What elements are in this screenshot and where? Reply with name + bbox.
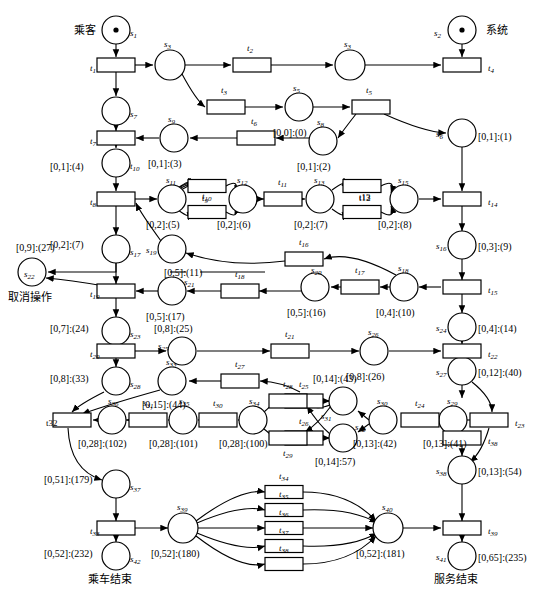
place-label-s30: s30 (377, 397, 388, 408)
transition-t9 (188, 180, 226, 193)
transition-label-t39: t39 (488, 527, 498, 538)
place-label-s10: t10 (130, 162, 140, 173)
transition-t32 (53, 413, 91, 427)
place-marking-s37: [0,51]:(179) (44, 475, 93, 485)
place-s18 (390, 273, 418, 301)
place-label-s29: s29 (447, 397, 458, 408)
annotation-3: 乘车结束 (88, 574, 132, 585)
transition-label-t21: t21 (285, 330, 295, 341)
place-marking-s17: [0,2]:(7) (50, 240, 84, 250)
place-label-s40: s40 (382, 503, 393, 514)
place-label-s27: s27 (436, 368, 447, 379)
token-s1 (113, 27, 118, 32)
transition-t13 (343, 206, 381, 219)
place-s33 (158, 367, 186, 395)
place-marking-s35: [0,28]:(101) (149, 439, 198, 449)
transition-label-t19: t19 (90, 290, 100, 301)
place-s21 (158, 277, 186, 305)
transition-t6 (237, 131, 275, 145)
place-s6 (448, 119, 476, 147)
place-marking-s21: [0,5]:(17) (146, 312, 185, 322)
transition-label-t22: t22 (488, 350, 498, 361)
transition-label-t27: t27 (235, 360, 245, 371)
place-marking-s10: [0,1]:(4) (50, 162, 84, 172)
place-s12 (229, 185, 257, 213)
place-label-s22: s22 (24, 270, 35, 281)
petri-net-canvas (0, 0, 544, 596)
annotation-1: 系统 (486, 25, 508, 36)
place-s30 (369, 406, 397, 434)
place-marking-s25: [0,8]:(25) (154, 324, 193, 334)
place-s8 (309, 127, 337, 155)
transition-t17 (341, 280, 379, 294)
place-marking-s36: [0,28]:(102) (78, 439, 127, 449)
place-label-s24: s24 (436, 324, 447, 335)
transition-label-t35: t35 (279, 490, 289, 501)
transition-t30 (199, 413, 237, 427)
place-label-s3a: s3 (164, 40, 171, 51)
place-label-s35: s35 (179, 397, 190, 408)
place-marking-s9: [0,1]:(3) (148, 159, 182, 169)
transition-label-t23: t23 (515, 419, 525, 430)
place-s11 (158, 185, 186, 213)
place-s9 (160, 124, 188, 152)
transition-label-t28: t28 (283, 380, 293, 391)
transition-t28 (269, 394, 307, 408)
place-s31 (329, 387, 357, 415)
transition-label-t33: t33 (90, 527, 100, 538)
transition-t23 (470, 413, 508, 427)
place-s17 (102, 235, 130, 263)
place-label-s42: s42 (130, 555, 141, 566)
place-s23 (102, 317, 130, 345)
place-label-s2: s2 (434, 29, 441, 40)
place-s42 (102, 542, 130, 570)
place-marking-s38: [0,13]:(54) (478, 467, 522, 477)
place-marking-s29: [0,13]:(41) (423, 439, 467, 449)
place-s13 (306, 185, 334, 213)
transition-t14 (443, 192, 481, 206)
place-label-s25: s25 (158, 342, 169, 353)
transition-label-t38b: t38 (279, 544, 289, 555)
place-marking-s28: [0,8]:(33) (50, 374, 89, 384)
place-label-s20: s20 (311, 266, 322, 277)
transition-t16 (285, 252, 323, 266)
place-label-s36: s36 (108, 397, 119, 408)
place-s34 (239, 406, 267, 434)
place-label-s31: s31 (321, 412, 332, 423)
transition-label-t34: t34 (279, 472, 289, 483)
place-marking-s34: [0,28]:(100) (219, 439, 268, 449)
transition-label-t11: t11 (278, 178, 287, 189)
token-s2 (459, 27, 464, 32)
transition-label-t17: t17 (355, 266, 365, 277)
transition-label-t30: t30 (213, 399, 223, 410)
transition-label-t18: t18 (235, 270, 245, 281)
place-label-s6: s6 (436, 130, 443, 141)
place-s36 (98, 406, 126, 434)
place-s24 (448, 313, 476, 341)
place-marking-s20: [0,5]:(16) (287, 308, 326, 318)
place-s3a (155, 50, 185, 80)
place-marking-s23: [0,7]:(24) (50, 324, 89, 334)
place-label-s19: s19 (146, 246, 157, 257)
transition-label-t14: t14 (488, 198, 498, 209)
place-label-s7: s7 (130, 110, 137, 121)
place-label-s41: s41 (436, 553, 447, 564)
place-s16 (448, 231, 476, 259)
place-marking-s22: [0,9]:(27) (16, 243, 55, 253)
place-marking-s32: [0,14]:57) (315, 457, 355, 467)
transition-t31s (129, 413, 167, 427)
transition-t20 (97, 344, 135, 358)
place-s35 (169, 406, 197, 434)
place-label-s13: s13 (314, 176, 325, 187)
annotation-4: 服务结束 (434, 574, 478, 585)
place-label-s16: s16 (436, 242, 447, 253)
transition-t7 (97, 131, 135, 145)
transition-t1 (97, 58, 135, 72)
place-s29 (439, 406, 467, 434)
place-s40 (373, 513, 403, 543)
transition-t15 (443, 280, 481, 294)
transition-t21 (271, 344, 309, 358)
transition-label-t26: t26 (299, 417, 309, 428)
place-marking-s13: [0,2]:(7) (294, 220, 328, 230)
annotation-2: 取消操作 (8, 292, 52, 303)
